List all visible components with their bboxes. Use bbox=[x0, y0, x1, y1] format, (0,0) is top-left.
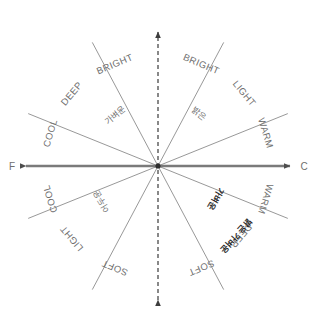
sector-label-deep-upper-left: DEEP bbox=[58, 79, 84, 107]
sector-label-kr-lower-right: 가벼운 bbox=[206, 186, 227, 212]
radial-scale-canvas: F C BRIGHTBRIGHTDEEPLIGHTCOOLWARMCOOLWAR… bbox=[0, 0, 317, 333]
sector-label-soft-lower-right: SOFT bbox=[187, 258, 216, 279]
sector-label-light-upper-right: LIGHT bbox=[231, 78, 259, 108]
sector-label-kr-upper-right: 밝은 bbox=[190, 105, 209, 123]
axis-cap-left: F bbox=[9, 161, 15, 172]
sector-label-light-lower-left: LIGHT bbox=[58, 224, 86, 254]
origin-point bbox=[155, 163, 160, 168]
sector-label-bright-right: BRIGHT bbox=[182, 51, 222, 76]
sector-label-kr-lower-left: 어두운 bbox=[91, 189, 112, 215]
axis-cap-right: C bbox=[300, 161, 307, 172]
image-scale-diagram: F C BRIGHTBRIGHTDEEPLIGHTCOOLWARMCOOLWAR… bbox=[0, 0, 317, 333]
sector-label-bright-left: BRIGHT bbox=[95, 51, 135, 76]
sector-label-kr-upper-left: 가벼운 bbox=[103, 103, 128, 126]
sector-label-cool-upper-left: COOL bbox=[41, 118, 60, 149]
sector-label-cool-lower-left: COOL bbox=[41, 184, 60, 215]
sector-label-warm-upper-right: WARM bbox=[256, 116, 276, 149]
axis-group bbox=[26, 32, 290, 300]
sector-label-soft-lower-left: SOFT bbox=[100, 258, 129, 279]
sector-label-warm-lower-right: WARM bbox=[256, 182, 276, 215]
